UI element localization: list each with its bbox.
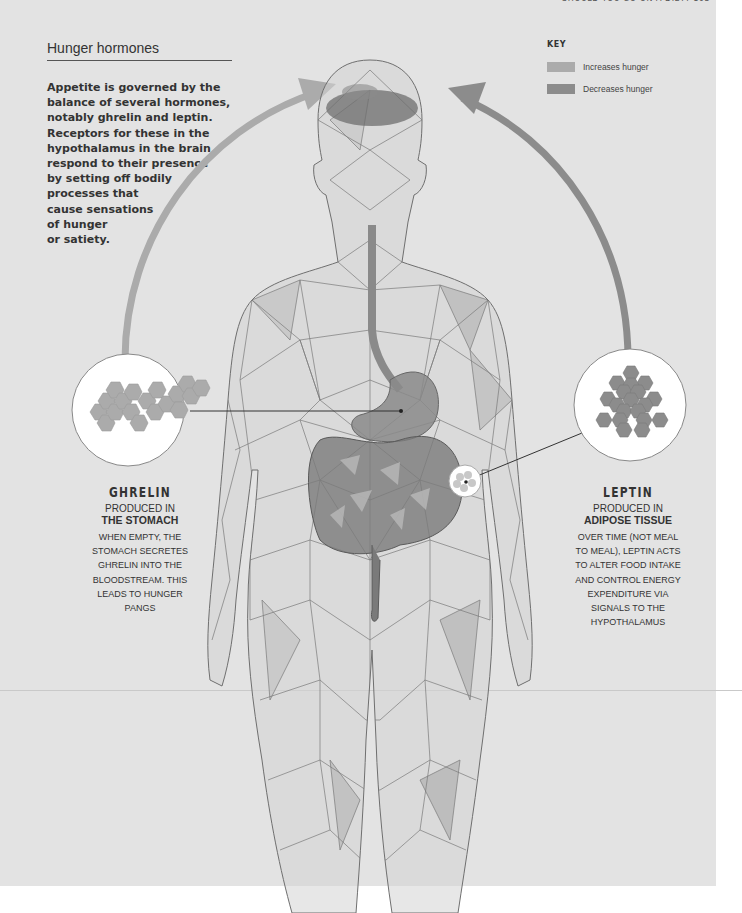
ghrelin-info: GHRELIN PRODUCED IN THE STOMACH WHEN EMP… xyxy=(40,484,240,615)
produced-label: PRODUCED IN xyxy=(538,503,718,514)
stomach-marker xyxy=(399,409,403,413)
hormone-name: LEPTIN xyxy=(552,484,705,500)
desc-line: GHRELIN INTO THE xyxy=(40,558,240,572)
produced-label: PRODUCED IN xyxy=(40,503,240,514)
desc-line: AND CONTROL ENERGY xyxy=(538,573,718,587)
desc-line: WHEN EMPTY, THE xyxy=(40,530,240,544)
hormone-source: THE STOMACH xyxy=(40,514,240,526)
hormone-description: OVER TIME (NOT MEAL TO MEAL), LEPTIN ACT… xyxy=(538,530,718,629)
leptin-info: LEPTIN PRODUCED IN ADIPOSE TISSUE OVER T… xyxy=(538,484,718,629)
body-illustration xyxy=(0,0,742,913)
desc-line: TO MEAL), LEPTIN ACTS xyxy=(538,544,718,558)
hormone-description: WHEN EMPTY, THE STOMACH SECRETES GHRELIN… xyxy=(40,530,240,615)
desc-line: STOMACH SECRETES xyxy=(40,544,240,558)
desc-line: LEADS TO HUNGER xyxy=(40,587,240,601)
wireframe-body xyxy=(208,60,532,913)
hormone-source: ADIPOSE TISSUE xyxy=(538,514,718,526)
desc-line: HYPOTHALAMUS xyxy=(538,615,718,629)
desc-line: TO ALTER FOOD INTAKE xyxy=(538,558,718,572)
desc-line: SIGNALS TO THE xyxy=(538,601,718,615)
desc-line: EXPENDITURE VIA xyxy=(538,587,718,601)
desc-line: BLOODSTREAM. THIS xyxy=(40,573,240,587)
leptin-molecule-circle xyxy=(574,349,686,461)
ghrelin-molecule-circle xyxy=(72,354,210,466)
desc-line: OVER TIME (NOT MEAL xyxy=(538,530,718,544)
hormone-name: GHRELIN xyxy=(55,484,225,500)
desc-line: PANGS xyxy=(40,601,240,615)
